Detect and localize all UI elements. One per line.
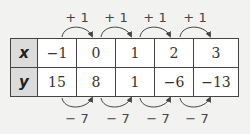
top-difference-label: + 1 (143, 10, 166, 25)
bottom-difference-label: − 7 (65, 111, 88, 126)
row-header-y: y (11, 68, 38, 97)
top-difference-label: + 1 (65, 10, 88, 25)
table-row-x: x −1 0 1 2 3 (11, 39, 239, 68)
table-cell: 1 (116, 68, 155, 97)
table-cell: −13 (194, 68, 239, 97)
top-difference-label: + 1 (104, 10, 127, 25)
table-cell: 1 (116, 39, 155, 68)
table-cell: 3 (194, 39, 239, 68)
bottom-arrow-icon (101, 98, 131, 107)
top-arrow-icon (180, 27, 210, 37)
table-row-y: y 15 8 1 −6 −13 (11, 68, 239, 97)
top-arrow-icon (140, 27, 170, 37)
table-cell: 15 (38, 68, 77, 97)
table-cell: −1 (38, 39, 77, 68)
top-arrow-icon (101, 27, 131, 37)
top-arrow-icon (62, 27, 92, 37)
bottom-difference-label: − 7 (106, 111, 129, 126)
bottom-difference-label: − 7 (146, 111, 169, 126)
top-difference-label: + 1 (183, 10, 206, 25)
bottom-arrow-icon (180, 98, 210, 107)
bottom-arrow-icon (140, 98, 170, 107)
bottom-difference-label: − 7 (185, 111, 208, 126)
xy-table: x −1 0 1 2 3 y 15 8 1 −6 −13 (10, 38, 239, 97)
table-cell: 0 (77, 39, 116, 68)
table-cell: 8 (77, 68, 116, 97)
bottom-arrow-icon (62, 98, 92, 107)
table-cell: 2 (155, 39, 194, 68)
table-cell: −6 (155, 68, 194, 97)
row-header-x: x (11, 39, 38, 68)
